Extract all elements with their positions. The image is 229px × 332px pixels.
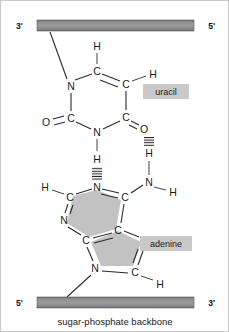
glycosidic-bond-uracil	[50, 32, 67, 79]
adenine-label: adenine	[140, 236, 192, 251]
bottom-backbone: 5' 3'	[16, 297, 215, 308]
atom-adenine-n1: N	[93, 181, 101, 193]
atom-adenine-c6: C	[121, 191, 129, 203]
adenine-bond-n1-c6-a	[102, 189, 119, 193]
uracil-bond-n1-c6	[75, 74, 92, 80]
atom-uracil-c6: C	[122, 78, 130, 90]
figure-caption: sugar-phosphate backbone	[57, 316, 172, 327]
uracil-bond-c5-h	[132, 76, 146, 81]
atom-adenine-c5: C	[114, 224, 122, 236]
uracil-bond-c4-o4-b	[129, 125, 137, 129]
adenine-label-text: adenine	[150, 239, 182, 249]
top-backbone-bar	[37, 20, 194, 31]
adenine-bond-c2-h	[52, 190, 64, 194]
uracil-bond-c6-c5-b	[100, 80, 118, 87]
hbond-left-hatch	[92, 167, 102, 180]
atom-uracil-n1: N	[67, 80, 75, 92]
atom-uracil-o4: O	[140, 123, 148, 135]
uracil-label-text: uracil	[155, 87, 177, 97]
adenine-bond-c6-n6	[131, 185, 143, 193]
adenine-bond-n9-c4	[87, 247, 93, 261]
atom-uracil-n3: N	[93, 126, 101, 138]
adenine-structure: N C H N C C C N H N C H N	[41, 176, 177, 290]
atom-adenine-c2: C	[66, 191, 74, 203]
uracil-bond-c6-c5-a	[102, 74, 120, 81]
uracil-bond-c2-n3	[76, 122, 91, 129]
hbond-right-hatch	[144, 137, 154, 146]
uracil-bond-n3-c4	[103, 121, 120, 129]
adenine-bond-c2-n3-a	[65, 204, 68, 213]
adenine-bond-c5-c6	[121, 204, 124, 223]
atom-adenine-h-c2: H	[41, 181, 49, 193]
atom-uracil-o2: O	[42, 116, 50, 128]
bottom-backbone-left-label: 5'	[16, 298, 23, 308]
atom-adenine-c8: C	[131, 266, 139, 278]
atom-uracil-c5: C	[93, 65, 101, 77]
atom-uracil-h-right: H	[149, 68, 157, 80]
hydrogen-bonds: H H	[92, 137, 154, 180]
adenine-bond-n6-h	[154, 187, 166, 190]
top-backbone-right-label: 5'	[208, 21, 215, 31]
glycosidic-bond-adenine	[67, 275, 91, 297]
atom-hbond-right-h: H	[145, 147, 153, 159]
base-pair-diagram: 3' 5' H C C H N C O N C	[0, 0, 229, 332]
atom-adenine-n9: N	[91, 262, 99, 274]
adenine-bond-n7-c8-a	[138, 251, 143, 265]
uracil-bond-c2-o2-a	[53, 116, 64, 119]
uracil-label: uracil	[143, 84, 189, 99]
atom-hbond-left-h: H	[93, 153, 101, 165]
atom-uracil-c4: C	[122, 111, 130, 123]
uracil-bond-c4-o4-a	[131, 121, 139, 125]
top-backbone: 3' 5'	[16, 20, 215, 31]
atom-adenine-n3: N	[60, 214, 68, 226]
bottom-backbone-right-label: 3'	[208, 298, 215, 308]
atom-adenine-h-c8: H	[156, 278, 164, 290]
atom-adenine-c4: C	[82, 234, 90, 246]
adenine-bond-c8-n9	[102, 271, 128, 273]
atom-adenine-n6: N	[145, 176, 153, 188]
uracil-structure: H C C H N C O N C O	[42, 40, 157, 138]
bottom-backbone-bar	[37, 297, 194, 308]
atom-uracil-h-top: H	[93, 40, 101, 52]
atom-uracil-c2: C	[67, 112, 75, 124]
atom-adenine-h-n6: H	[169, 186, 177, 198]
adenine-bond-c8-h	[141, 276, 153, 280]
diagram-canvas: 3' 5' H C C H N C O N C	[1, 1, 229, 332]
top-backbone-left-label: 3'	[16, 21, 23, 31]
uracil-bond-c2-o2-b	[54, 122, 65, 125]
